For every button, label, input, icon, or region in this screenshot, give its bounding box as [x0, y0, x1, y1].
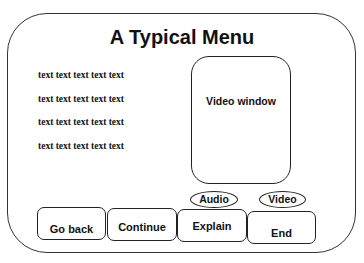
audio-toggle[interactable]: Audio — [190, 191, 238, 208]
video-window: Video window — [191, 56, 291, 184]
go-back-label: Go back — [38, 223, 105, 235]
text-line-2: text text text text text — [38, 94, 124, 104]
end-button[interactable]: End — [247, 211, 316, 244]
video-window-label: Video window — [192, 95, 290, 107]
text-line-4: text text text text text — [38, 141, 124, 151]
continue-label: Continue — [108, 221, 176, 233]
explain-button[interactable]: Explain — [177, 209, 247, 242]
go-back-button[interactable]: Go back — [37, 207, 106, 240]
explain-label: Explain — [178, 220, 246, 232]
end-label: End — [248, 227, 315, 239]
text-line-3: text text text text text — [38, 117, 124, 127]
text-line-1: text text text text text — [38, 70, 124, 80]
video-toggle[interactable]: Video — [259, 191, 306, 208]
menu-title: A Typical Menu — [0, 26, 364, 49]
continue-button[interactable]: Continue — [107, 208, 177, 241]
